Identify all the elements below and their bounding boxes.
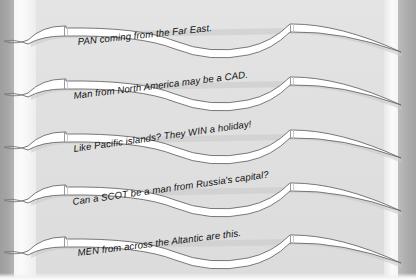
ribbon-clue-1-label: PAN coming from the Far East. xyxy=(77,22,212,47)
ribbon-banner-2[interactable]: Man from North America may be a CAD. xyxy=(0,64,416,124)
page-canvas: PAN coming from the Far East. Man from N… xyxy=(0,0,416,280)
ribbon-banner-4[interactable]: Can a SCOT be a man from Russia's capita… xyxy=(0,170,416,230)
ribbon-banner-3[interactable]: Like Pacific islands? They WIN a holiday… xyxy=(0,117,416,177)
ribbon-banner-5[interactable]: MEN from across the Altantic are this. xyxy=(0,222,416,280)
ribbon-banner-1[interactable]: PAN coming from the Far East. xyxy=(0,11,416,71)
ribbon-list: PAN coming from the Far East. Man from N… xyxy=(0,0,416,280)
